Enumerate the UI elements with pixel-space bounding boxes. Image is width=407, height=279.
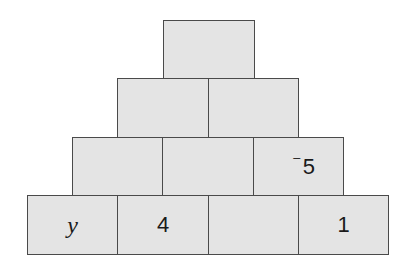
- brick-variable-y: y: [67, 213, 78, 237]
- brick-r3-c3: ⁻5: [253, 137, 344, 196]
- brick-r3-c2: [162, 137, 254, 196]
- brick-r2-c1: [117, 78, 209, 138]
- brick-r4-c2: 4: [117, 195, 209, 255]
- brick-value: 1: [337, 214, 349, 236]
- brick-r1-c1: [163, 20, 255, 79]
- brick-r3-c1: [72, 137, 163, 196]
- minus-sign: ⁻: [292, 152, 302, 172]
- brick-number: 5: [303, 154, 315, 179]
- brick-r4-c3: [208, 195, 299, 255]
- number-pyramid: ⁻5 y 4 1: [0, 0, 407, 279]
- brick-value: 4: [157, 214, 169, 236]
- brick-r4-c4: 1: [298, 195, 389, 255]
- brick-value-negative: ⁻5: [292, 156, 315, 178]
- brick-r4-c1: y: [27, 195, 118, 255]
- brick-r2-c2: [208, 78, 299, 138]
